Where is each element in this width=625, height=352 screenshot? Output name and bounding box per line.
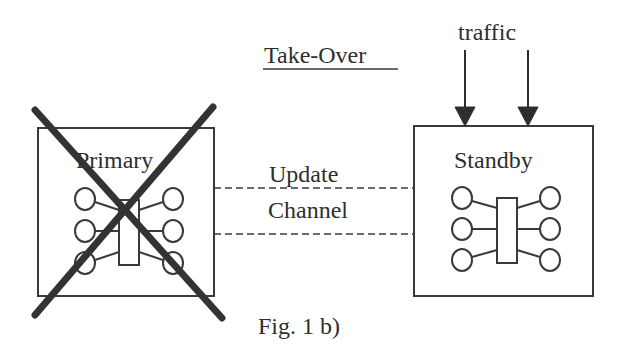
failure-cross-icon [0,0,625,352]
